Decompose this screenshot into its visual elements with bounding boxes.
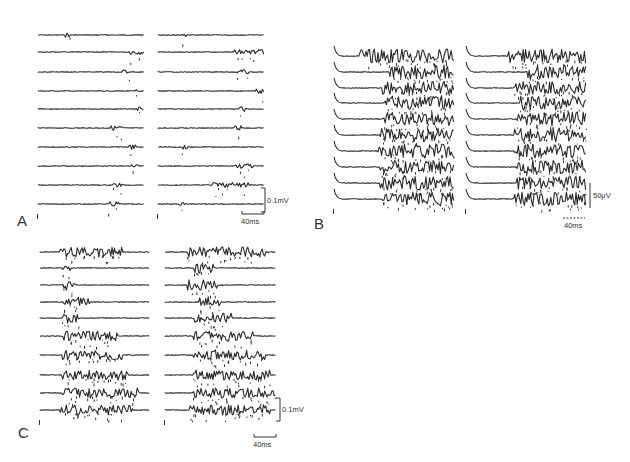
spike-fragment [576, 162, 577, 165]
spike-fragment [395, 98, 396, 99]
spike-fragment [210, 360, 211, 361]
spike-fragment [533, 106, 534, 108]
spike-fragment [572, 95, 573, 98]
spike-fragment [554, 172, 555, 174]
spike-fragment [121, 383, 122, 386]
spike-fragment [213, 293, 214, 295]
spike-fragment [449, 208, 450, 210]
spike-fragment [62, 322, 63, 324]
spike-fragment [522, 63, 523, 65]
spike-fragment [564, 110, 565, 112]
spike-fragment [79, 361, 80, 363]
spike-fragment [224, 260, 225, 263]
spike-fragment [533, 205, 534, 207]
spike-fragment [251, 400, 252, 402]
spike-fragment [383, 138, 384, 140]
spike-fragment [401, 129, 402, 131]
spike-fragment [222, 194, 223, 196]
spike-fragment [76, 308, 77, 310]
spike-fragment [197, 386, 198, 388]
spike-fragment [238, 383, 239, 385]
spike-fragment [392, 162, 393, 165]
spike-fragment [77, 414, 78, 417]
spike-fragment [195, 414, 196, 417]
spike-fragment [574, 92, 575, 94]
spike-fragment [405, 129, 406, 131]
spike-fragment [76, 396, 77, 399]
spike-fragment [97, 381, 98, 383]
spike-fragment [569, 130, 570, 132]
spike-fragment [570, 209, 571, 211]
spike-fragment [400, 77, 401, 80]
trace-sweep [40, 266, 149, 270]
spike-fragment [571, 205, 572, 208]
spike-fragment [84, 346, 85, 349]
trace-sweep [466, 173, 586, 190]
spike-fragment [398, 208, 399, 211]
spike-fragment [214, 365, 215, 367]
spike-fragment [566, 60, 567, 63]
spike-fragment [446, 61, 447, 64]
spike-fragment [533, 172, 534, 174]
spike-fragment [403, 160, 404, 163]
spike-fragment [527, 111, 528, 113]
spike-fragment [208, 400, 209, 401]
spike-fragment [258, 401, 259, 403]
spike-fragment [102, 339, 103, 340]
spike-fragment [518, 97, 519, 100]
spike-fragment [212, 340, 213, 343]
spike-fragment [211, 359, 212, 360]
spike-fragment [72, 404, 73, 406]
spike-fragment [433, 203, 434, 206]
trace-sweep [165, 297, 275, 306]
spike-fragment [133, 171, 134, 174]
spike-fragment [436, 186, 437, 187]
spike-fragment [571, 108, 572, 110]
spike-fragment [567, 65, 568, 67]
spike-fragment [562, 189, 563, 191]
spike-fragment [529, 188, 530, 189]
trace-sweep [165, 370, 275, 380]
spike-fragment [443, 128, 444, 129]
trace-sweep [334, 62, 454, 79]
spike-fragment [89, 415, 90, 416]
spike-fragment [583, 80, 584, 82]
spike-fragment [193, 398, 194, 401]
spike-fragment [139, 112, 140, 113]
spike-fragment [253, 60, 254, 62]
spike-fragment [406, 112, 407, 113]
spike-fragment [427, 80, 428, 83]
spike-fragment [577, 206, 578, 208]
spike-fragment [210, 296, 211, 299]
spike-fragment [427, 126, 428, 128]
trace-sweep [158, 70, 264, 74]
spike-fragment [215, 296, 216, 299]
spike-fragment [394, 140, 395, 142]
spike-fragment [94, 256, 95, 259]
spike-fragment [408, 143, 409, 145]
spike-fragment [207, 384, 208, 386]
trace-sweep [466, 189, 586, 206]
spike-fragment [560, 123, 561, 125]
spike-fragment [237, 78, 238, 80]
spike-fragment [572, 78, 573, 81]
spike-fragment [106, 262, 107, 265]
trace-sweep [466, 141, 586, 158]
spike-fragment [453, 157, 454, 159]
spike-fragment [68, 382, 69, 385]
spike-fragment [520, 172, 521, 175]
spike-fragment [395, 173, 396, 175]
spike-fragment [442, 208, 443, 210]
spike-fragment [90, 345, 91, 347]
spike-fragment [112, 397, 113, 399]
spike-fragment [125, 383, 126, 384]
spike-fragment [575, 173, 576, 174]
spike-fragment [527, 94, 528, 96]
spike-fragment [395, 176, 396, 178]
spike-fragment [247, 257, 248, 260]
spike-fragment [566, 126, 567, 129]
spike-fragment [75, 340, 76, 343]
panel-a-scale-bar: 0.1mV 40ms [241, 188, 289, 226]
spike-fragment [555, 139, 556, 142]
spike-fragment [538, 79, 539, 80]
